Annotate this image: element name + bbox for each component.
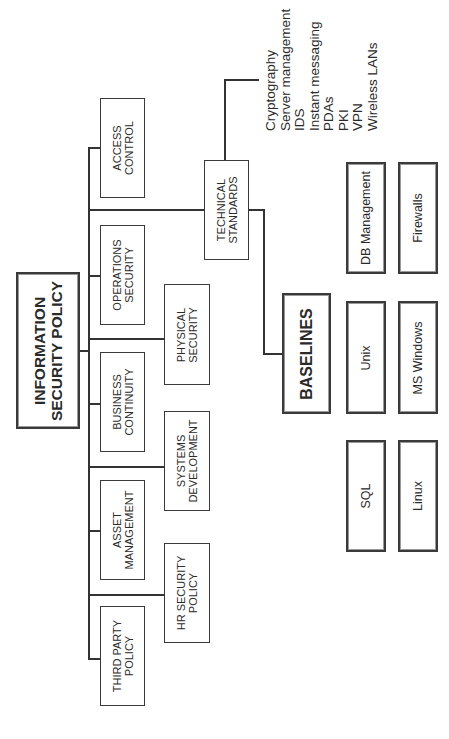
access-control-label: ACCESS CONTROL [110, 121, 135, 175]
third-party-policy-label: THIRD PARTY POLICY [110, 620, 135, 692]
information-security-policy-label: INFORMATION SECURITY POLICY [31, 280, 66, 420]
connector-technical-standards [88, 209, 204, 211]
db-management-box: DB Management [346, 162, 386, 274]
label-line2: POLICY [123, 620, 135, 692]
connector-systems-development [88, 466, 164, 468]
physical-security-box: PHYSICAL SECURITY [164, 284, 210, 385]
systems-development-box: SYSTEMS DEVELOPMENT [164, 411, 210, 511]
technical-standards-label: TECHNICAL STANDARDS [214, 176, 239, 243]
operations-security-label: OPERATIONS SECURITY [110, 239, 135, 310]
list-item: VPN [351, 0, 366, 131]
label-line1: PHYSICAL [175, 307, 187, 363]
sql-box: SQL [346, 440, 386, 552]
connector-third-party [88, 658, 100, 660]
connector-business-continuity [88, 403, 100, 405]
technical-standards-box: TECHNICAL STANDARDS [204, 160, 249, 260]
list-item: Cryptography [264, 0, 279, 131]
connector-operations-security [88, 275, 100, 277]
label-line2: DEVELOPMENT [187, 419, 199, 502]
linux-box: Linux [398, 440, 438, 552]
label-line2: STANDARDS [227, 176, 239, 243]
list-item: Wireless LANs [366, 0, 381, 131]
label-line1: SYSTEMS [175, 419, 187, 502]
ms-windows-box: MS Windows [398, 301, 438, 414]
information-security-policy-box: INFORMATION SECURITY POLICY [16, 272, 80, 429]
linux-label: Linux [411, 481, 425, 511]
asset-management-box: ASSET MANAGEMENT [100, 480, 145, 580]
unix-box: Unix [346, 301, 386, 414]
label-line1: ASSET [110, 491, 122, 570]
asset-management-label: ASSET MANAGEMENT [110, 491, 135, 570]
connector-asset-management [88, 530, 100, 532]
label-line1: HR SECURITY [175, 556, 187, 631]
db-management-label: DB Management [359, 171, 373, 265]
label-line1: BUSINESS [110, 368, 122, 435]
label-line1: OPERATIONS [110, 239, 122, 310]
list-item: PKI [337, 0, 352, 131]
systems-development-label: SYSTEMS DEVELOPMENT [175, 419, 200, 502]
label-line2: CONTINUITY [123, 368, 135, 435]
sql-label: SQL [359, 483, 373, 508]
access-control-box: ACCESS CONTROL [100, 98, 145, 198]
label-line2: POLICY [187, 556, 199, 631]
list-item: Instant messaging [308, 0, 323, 131]
label-line2: SECURITY [123, 239, 135, 310]
list-item: PDAs [322, 0, 337, 131]
connector-tech-list-vertical [224, 79, 226, 160]
hr-security-policy-label: HR SECURITY POLICY [175, 556, 200, 631]
label-line1: THIRD PARTY [110, 620, 122, 692]
hr-security-policy-box: HR SECURITY POLICY [164, 543, 210, 643]
list-item: Server management [279, 0, 294, 131]
firewalls-box: Firewalls [398, 162, 438, 274]
physical-security-label: PHYSICAL SECURITY [175, 307, 200, 363]
label-line1: TECHNICAL [214, 176, 226, 243]
connector-baselines-vertical [263, 209, 265, 354]
label-line2: CONTROL [123, 121, 135, 175]
label-line2: MANAGEMENT [123, 491, 135, 570]
root-label-line2: SECURITY POLICY [48, 280, 65, 420]
technical-standards-list: Cryptography Server management IDS Insta… [264, 0, 382, 131]
root-connector [80, 350, 89, 352]
connector-hr-security [88, 594, 164, 596]
connector-physical-security [88, 338, 164, 340]
unix-label: Unix [359, 345, 373, 370]
ms-windows-label: MS Windows [411, 321, 425, 394]
business-continuity-label: BUSINESS CONTINUITY [110, 368, 135, 435]
list-item: IDS [293, 0, 308, 131]
label-line1: ACCESS [110, 121, 122, 175]
connector-access-control [88, 147, 100, 149]
third-party-policy-box: THIRD PARTY POLICY [100, 606, 145, 706]
baselines-box: BASELINES [282, 293, 331, 414]
baselines-label: BASELINES [298, 308, 316, 400]
connector-baselines-horizontal-bottom [263, 353, 282, 355]
root-label-line1: INFORMATION [31, 280, 48, 420]
firewalls-label: Firewalls [411, 193, 425, 242]
business-continuity-box: BUSINESS CONTINUITY [100, 352, 145, 452]
operations-security-box: OPERATIONS SECURITY [100, 225, 145, 325]
connector-tech-list-horizontal [224, 79, 259, 81]
label-line2: SECURITY [187, 307, 199, 363]
